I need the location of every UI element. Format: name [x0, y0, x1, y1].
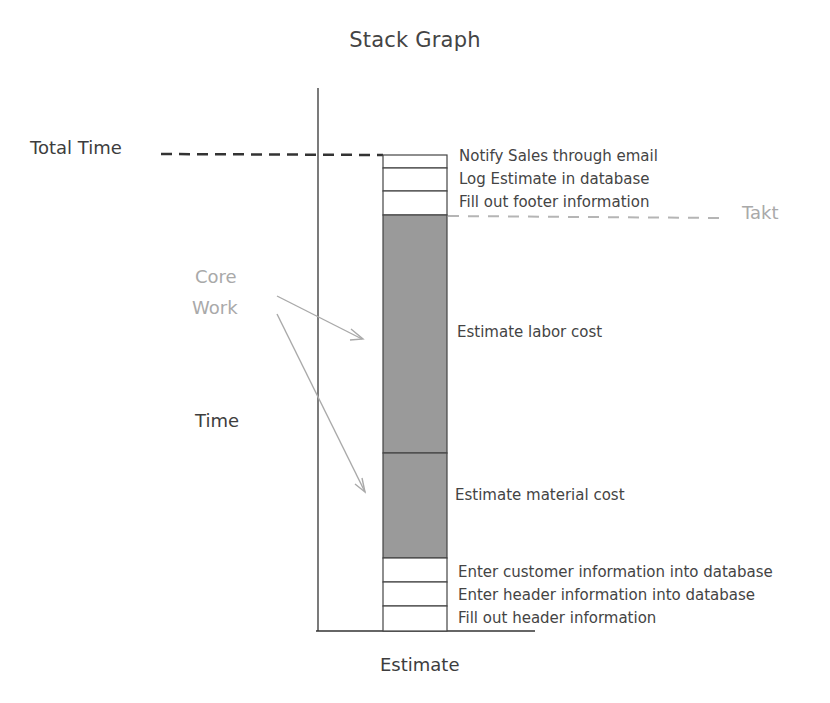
segment-label: Enter customer information into database	[458, 561, 773, 584]
segment-labor-cost	[383, 215, 447, 453]
segment-enter-header	[383, 582, 447, 606]
core-work-arrows	[277, 296, 365, 492]
total-time-line	[161, 154, 383, 155]
segment-log-estimate	[383, 168, 447, 191]
segment-label: Estimate labor cost	[457, 321, 602, 344]
segment-label: Log Estimate in database	[459, 168, 650, 191]
segment-label: Enter header information into database	[458, 584, 755, 607]
x-axis-label: Estimate	[380, 654, 460, 675]
y-axis-label: Time	[195, 410, 239, 431]
core-work-label-line2: Work	[192, 297, 238, 318]
segment-fill-header	[383, 606, 447, 631]
segment-label: Estimate material cost	[455, 484, 625, 507]
takt-label: Takt	[742, 202, 779, 223]
segment-label: Fill out footer information	[459, 191, 649, 214]
segment-label: Fill out header information	[458, 607, 656, 630]
total-time-label: Total Time	[30, 137, 122, 158]
segment-notify-sales	[383, 155, 447, 168]
segment-material-cost	[383, 453, 447, 558]
takt-line	[448, 216, 722, 218]
stack-bar	[383, 155, 447, 631]
segment-label: Notify Sales through email	[459, 145, 658, 168]
segment-enter-customer	[383, 558, 447, 582]
core-work-label-line1: Core	[195, 266, 237, 287]
segment-fill-footer	[383, 191, 447, 215]
